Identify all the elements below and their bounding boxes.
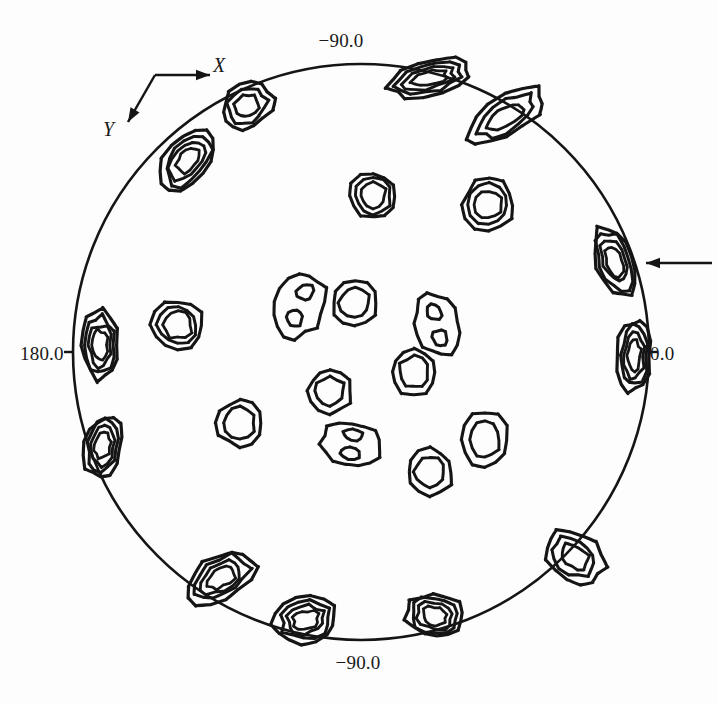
azimuth-label-right: 0.0: [650, 343, 674, 365]
pointer-arrow-layer: [646, 258, 712, 268]
contour-peak: [466, 86, 542, 145]
contour-peak: [385, 57, 469, 99]
contour-peak: [319, 423, 380, 466]
axis-direction-label-x: X: [213, 54, 225, 77]
contour-peak: [215, 399, 260, 448]
contour-peak: [307, 370, 351, 415]
reference-axis-y: [128, 75, 155, 122]
contour-peak: [274, 274, 327, 341]
contour-peak: [414, 293, 460, 355]
contour-peaks-layer: [81, 57, 651, 645]
pole-figure-plot: [0, 0, 718, 705]
azimuth-label-left: 180.0: [20, 343, 64, 365]
azimuth-label-bottom: −90.0: [336, 652, 381, 674]
pointer-arrow: [646, 258, 712, 268]
contour-peak: [224, 81, 276, 131]
contour-peak: [617, 321, 651, 394]
contour-peak: [350, 174, 395, 217]
contour-peak: [461, 178, 512, 231]
axis-direction-label-y: Y: [103, 118, 114, 141]
azimuth-label-top: −90.0: [319, 30, 364, 52]
reference-axis-x: [155, 70, 210, 80]
contour-peak: [545, 530, 608, 586]
contour-peak: [81, 307, 117, 382]
contour-peak: [150, 302, 202, 350]
contour-peak: [393, 348, 435, 395]
contour-peak: [188, 552, 258, 606]
contour-peak: [461, 413, 507, 468]
contour-peak: [334, 281, 376, 326]
contour-peak: [409, 447, 452, 497]
contour-peak: [595, 226, 635, 295]
pole-figure-container: −90.0 −90.0 180.0 0.0 X Y: [0, 0, 718, 705]
